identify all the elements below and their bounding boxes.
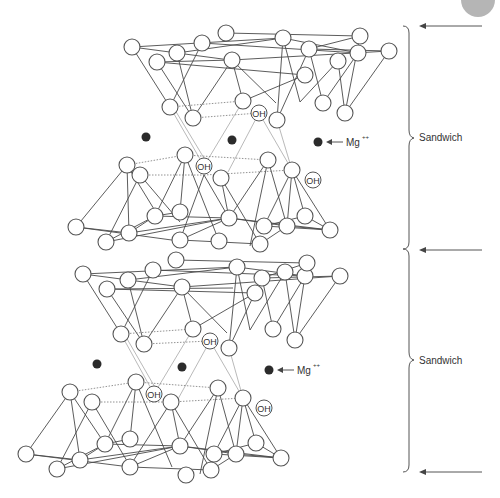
oh-group: OH — [202, 333, 218, 349]
svg-text:OH: OH — [203, 337, 217, 347]
svg-text:OH: OH — [252, 109, 266, 119]
boundary-arrow-top — [419, 23, 482, 29]
oh-group: OH — [146, 386, 162, 402]
svg-text:Mg: Mg — [346, 137, 360, 148]
sandwich-brace-bottom — [403, 249, 414, 472]
svg-text:OH: OH — [306, 176, 320, 186]
mg-ion — [228, 136, 237, 145]
boundary-arrow-middle — [419, 247, 482, 253]
oh-group: OH — [196, 158, 212, 174]
arrow-left-icon — [419, 247, 426, 253]
sandwich-label-bottom: Sandwich — [419, 355, 462, 366]
svg-text:OH: OH — [257, 404, 271, 414]
mg-ion — [178, 363, 187, 372]
corner-badge — [461, 0, 495, 17]
boundary-arrow-bottom — [419, 469, 482, 475]
svg-text:OH: OH — [147, 390, 161, 400]
svg-text:Mg: Mg — [297, 365, 311, 376]
mg-ion — [93, 360, 102, 369]
mg-ion — [265, 366, 274, 375]
arrow-left-icon — [326, 139, 332, 145]
svg-text:++: ++ — [313, 362, 321, 368]
oh-group: OH — [251, 105, 267, 121]
svg-text:OH: OH — [197, 162, 211, 172]
sandwich-label-top: Sandwich — [419, 132, 462, 143]
sandwich-structure-diagram: OH OH OH OH OH OH — [0, 0, 500, 498]
oh-group: OH — [256, 400, 272, 416]
mg-label-bottom: Mg ++ — [277, 362, 321, 376]
oh-group: OH — [305, 172, 321, 188]
arrow-left-icon — [419, 469, 426, 475]
arrow-left-icon — [419, 23, 426, 29]
mg-ion — [314, 138, 323, 147]
svg-text:++: ++ — [362, 134, 370, 140]
mg-label-top: Mg ++ — [326, 134, 370, 148]
mg-ion — [142, 133, 151, 142]
arrow-left-icon — [277, 367, 283, 373]
sandwich-brace-top — [403, 26, 414, 249]
